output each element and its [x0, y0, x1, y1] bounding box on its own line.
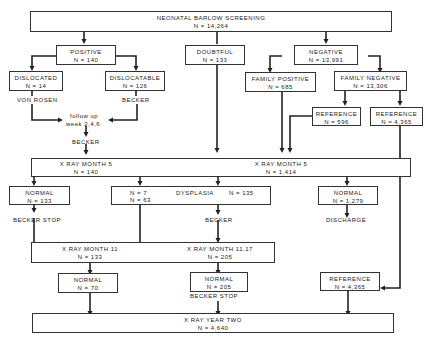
xray-month5-left-n: N = 140 — [55, 168, 117, 176]
positive-title: POSITIVE — [57, 48, 115, 56]
becker-label-2: BECKER — [72, 139, 100, 145]
xray-year-two-title: X RAY YEAR TWO — [33, 316, 393, 324]
screening-title: NEONATAL BARLOW SCREENING — [31, 14, 391, 22]
xray-year-two-box: X RAY YEAR TWO N = 4,640 — [32, 313, 394, 333]
xray-month5-left: X RAY MONTH 5 N = 140 — [55, 160, 117, 176]
normal-133-title: NORMAL — [10, 189, 69, 197]
becker-stop-label-2: BECKER STOP — [190, 293, 238, 299]
xray-month5-right: X RAY MONTH 5 N = 1,414 — [250, 160, 312, 176]
negative-box: NEGATIVE N = 13,991 — [294, 45, 358, 65]
dislocated-box: DISLOCATED N = 14 — [9, 71, 63, 91]
dysplasia-n-left-2: N = 63 — [130, 196, 151, 204]
discharge-label: DISCHARGE — [326, 217, 366, 223]
dislocatable-box: DISLOCATABLE N = 126 — [105, 71, 165, 91]
becker-label-3: BECKER — [205, 217, 233, 223]
normal-1279-n: N = 1,279 — [319, 197, 377, 205]
normal-70-box: NORMAL N = 70 — [58, 273, 118, 293]
xray-month11-17-title: X RAY MONTH 11,17 — [180, 245, 260, 253]
normal-70-title: NORMAL — [59, 276, 117, 284]
reference-596-box: REFERENCE N = 596 — [312, 107, 361, 126]
negative-n: N = 13,991 — [295, 56, 357, 64]
xray-month5-right-title: X RAY MONTH 5 — [250, 160, 312, 168]
xray-month11: X RAY MONTH 11 N = 133 — [55, 245, 125, 261]
negative-title: NEGATIVE — [295, 48, 357, 56]
dislocated-title: DISLOCATED — [10, 74, 62, 82]
xray-month5-right-n: N = 1,414 — [250, 168, 312, 176]
screening-box: NEONATAL BARLOW SCREENING N = 14,264 — [30, 11, 392, 32]
doubtful-n: N = 133 — [186, 56, 244, 64]
dislocatable-title: DISLOCATABLE — [106, 74, 164, 82]
xray-year-two-n: N = 4,640 — [33, 324, 393, 332]
dislocated-n: N = 14 — [10, 82, 62, 90]
positive-n: N = 140 — [57, 56, 115, 64]
follow-up-label: follow up — [70, 113, 98, 119]
becker-stop-label-1: BECKER STOP — [13, 217, 61, 223]
follow-up-weeks-label: week 2,4,6 — [66, 121, 100, 127]
family-positive-n: N = 685 — [246, 83, 315, 91]
doubtful-box: DOUBTFUL N = 133 — [185, 45, 245, 65]
reference-596-title: REFERENCE — [313, 110, 360, 118]
normal-1279-title: NORMAL — [319, 189, 377, 197]
screening-n: N = 14,264 — [31, 22, 391, 30]
reference-4365-top-title: REFERENCE — [371, 110, 422, 118]
dysplasia-box: N = 7 N = 63 DYSPLASIA N = 135 — [111, 186, 271, 205]
reference-4365-bottom-box: REFERENCE N = 4,365 — [320, 272, 380, 291]
family-positive-title: FAMILY POSITIVE — [246, 75, 315, 83]
reference-4365-top-n: N = 4,365 — [371, 118, 422, 126]
reference-596-n: N = 596 — [313, 118, 360, 126]
von-rosen-label: VON ROSEN — [17, 97, 58, 103]
dysplasia-n-right: N = 135 — [229, 189, 254, 197]
normal-133-box: NORMAL N = 133 — [9, 186, 70, 205]
positive-box: POSITIVE N = 140 — [56, 45, 116, 65]
normal-205-box: NORMAL N = 205 — [190, 272, 248, 292]
xray-month11-17: X RAY MONTH 11,17 N = 205 — [180, 245, 260, 261]
xray-month5-left-title: X RAY MONTH 5 — [55, 160, 117, 168]
family-positive-box: FAMILY POSITIVE N = 685 — [245, 72, 316, 92]
becker-label-1: BECKER — [122, 97, 150, 103]
xray-month11-title: X RAY MONTH 11 — [55, 245, 125, 253]
reference-4365-bottom-title: REFERENCE — [321, 275, 379, 283]
normal-1279-box: NORMAL N = 1,279 — [318, 186, 378, 205]
dysplasia-title: DYSPLASIA — [176, 189, 214, 197]
dislocatable-n: N = 126 — [106, 82, 164, 90]
reference-4365-top-box: REFERENCE N = 4,365 — [370, 107, 423, 126]
normal-70-n: N = 70 — [59, 284, 117, 292]
normal-205-title: NORMAL — [191, 275, 247, 283]
normal-133-n: N = 133 — [10, 197, 69, 205]
normal-205-n: N = 205 — [191, 283, 247, 291]
reference-4365-bottom-n: N = 4,365 — [321, 283, 379, 291]
xray-month11-n: N = 133 — [55, 253, 125, 261]
family-negative-n: N = 13,306 — [335, 82, 406, 90]
xray-month11-17-n: N = 205 — [180, 253, 260, 261]
family-negative-box: FAMILY NEGATIVE N = 13,306 — [334, 71, 407, 91]
doubtful-title: DOUBTFUL — [186, 48, 244, 56]
family-negative-title: FAMILY NEGATIVE — [335, 74, 406, 82]
